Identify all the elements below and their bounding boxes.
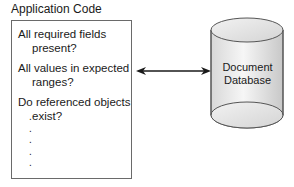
- diagram-graphics: [0, 0, 294, 187]
- document-database-label: Document Database: [211, 61, 284, 87]
- bidirectional-arrow-icon: [136, 67, 211, 75]
